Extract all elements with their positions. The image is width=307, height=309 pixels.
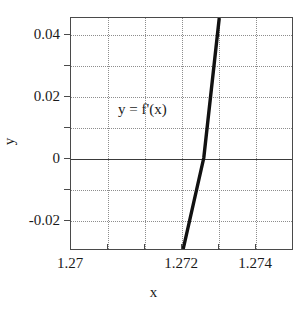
y-axis-tick-label: 0.04 <box>18 27 60 42</box>
y-axis-tick <box>64 34 70 35</box>
x-axis-tick-label: 1.272 <box>164 256 198 271</box>
y-axis-tick <box>64 158 70 159</box>
y-axis-tick <box>64 127 70 128</box>
y-axis-tick-label: 0.02 <box>18 89 60 104</box>
figure-derivative-root-plot: y = f'(x) 1.27 1.272 1.274 0.04 0.02 0 -… <box>0 0 307 309</box>
y-axis-tick-label: -0.02 <box>12 213 60 228</box>
x-axis-tick <box>181 244 182 250</box>
y-axis-tick <box>64 220 70 221</box>
x-axis-tick <box>292 244 293 250</box>
x-axis-tick <box>144 244 145 250</box>
x-axis-tick-label: 1.27 <box>57 256 83 271</box>
plot-area <box>70 17 293 250</box>
y-axis-tick <box>64 65 70 66</box>
x-axis-tick <box>255 244 256 250</box>
x-axis-title: x <box>0 285 307 300</box>
gridline-vertical <box>293 18 294 249</box>
annotation-equation: y = f'(x) <box>118 101 167 118</box>
x-axis-tick-label: 1.274 <box>238 256 272 271</box>
x-axis-tick <box>107 244 108 250</box>
x-axis-tick <box>218 244 219 250</box>
y-axis-title: y <box>2 138 17 146</box>
series-derivative-line <box>71 18 292 249</box>
y-axis-tick <box>64 96 70 97</box>
y-axis-tick-label: 0 <box>18 151 60 166</box>
x-axis-tick <box>70 244 71 250</box>
y-axis-tick <box>64 189 70 190</box>
